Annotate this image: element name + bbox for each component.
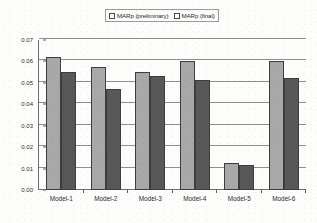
bar-final xyxy=(195,80,210,190)
bar-final xyxy=(61,72,76,190)
x-axis-tick-mark xyxy=(217,190,262,194)
legend-entry-final: MARp (final) xyxy=(174,12,215,19)
x-axis-tick-mark xyxy=(39,190,84,194)
x-axis-tick-mark xyxy=(128,190,173,194)
bar-preliminary xyxy=(269,61,284,190)
bar-final xyxy=(284,78,299,191)
y-axis-tick-label: 0.05 xyxy=(21,80,33,86)
bar-group xyxy=(173,40,218,190)
bar-preliminary xyxy=(224,163,239,190)
y-axis-tick-label: 0.04 xyxy=(21,101,33,107)
y-axis-tick-label: 0.01 xyxy=(21,166,33,172)
bar-final xyxy=(150,76,165,190)
legend-label-preliminary: MARp (preliminary) xyxy=(117,12,169,19)
legend-swatch-final-icon xyxy=(174,13,180,19)
x-axis-tick-label: Model-2 xyxy=(84,195,129,207)
y-axis: 0.070.060.050.040.030.020.010.00 xyxy=(8,40,35,190)
bar-group xyxy=(128,40,173,190)
bar-group xyxy=(84,40,129,190)
bar-series-container xyxy=(39,40,306,190)
bar-preliminary xyxy=(180,61,195,190)
bar-preliminary xyxy=(91,67,106,190)
bar-final xyxy=(239,165,254,190)
y-axis-tick-label: 0.06 xyxy=(21,58,33,64)
x-axis-tick-label: Model-5 xyxy=(217,195,262,207)
x-axis-labels: Model-1Model-2Model-3Model-4Model-5Model… xyxy=(39,195,306,207)
x-axis-tick-label: Model-6 xyxy=(262,195,307,207)
y-axis-tick-label: 0.03 xyxy=(21,123,33,129)
legend-label-final: MARp (final) xyxy=(182,12,215,19)
x-axis-ticks xyxy=(39,190,306,194)
chart-screenshot: MARp (preliminary) MARp (final) 0.070.06… xyxy=(0,0,317,223)
x-axis-tick-label: Model-4 xyxy=(173,195,218,207)
bar-final xyxy=(106,89,121,190)
x-axis-tick-mark xyxy=(173,190,218,194)
x-axis-tick-label: Model-1 xyxy=(39,195,84,207)
gridline xyxy=(39,38,306,39)
y-axis-tick-label: 0.07 xyxy=(21,37,33,43)
bar-preliminary xyxy=(135,72,150,191)
bar-group xyxy=(39,40,84,190)
bar-preliminary xyxy=(46,57,61,190)
y-axis-tick-label: 0.00 xyxy=(21,187,33,193)
chart-legend: MARp (preliminary) MARp (final) xyxy=(105,9,219,22)
x-axis-tick-mark xyxy=(262,190,307,194)
bar-group xyxy=(262,40,307,190)
legend-entry-preliminary: MARp (preliminary) xyxy=(109,12,169,19)
bar-group xyxy=(217,40,262,190)
legend-swatch-preliminary-icon xyxy=(109,13,115,19)
x-axis-tick-label: Model-3 xyxy=(128,195,173,207)
y-axis-tick-label: 0.02 xyxy=(21,144,33,150)
x-axis-tick-mark xyxy=(84,190,129,194)
